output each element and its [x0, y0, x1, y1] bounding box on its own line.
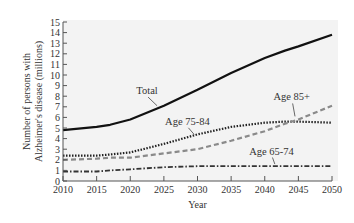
y-tick-label: 13 — [50, 38, 60, 49]
alzheimers-line-chart: 0123456789101112131415 20102015202020252… — [0, 0, 354, 223]
annotation-total: Total — [136, 85, 158, 96]
y-tick-label: 2 — [55, 154, 60, 165]
y-axis-label: Number of persons with Alzheimer's disea… — [21, 41, 45, 162]
x-tick-label: 2045 — [288, 184, 308, 195]
y-tick-label: 15 — [50, 17, 60, 28]
y-tick-label: 1 — [55, 165, 60, 176]
x-axis-label: Year — [188, 199, 207, 210]
y-tick-label: 7 — [55, 101, 60, 112]
y-tick-label: 14 — [50, 27, 60, 38]
x-tick-label: 2050 — [322, 184, 342, 195]
y-tick-label: 10 — [50, 70, 60, 81]
y-tick-label: 4 — [55, 133, 60, 144]
x-tick-label: 2015 — [87, 184, 107, 195]
x-tick-label: 2035 — [221, 184, 241, 195]
x-tick-label: 2020 — [120, 184, 140, 195]
x-tick-label: 2040 — [255, 184, 275, 195]
y-tick-label: 12 — [50, 48, 60, 59]
annotation-age-85-: Age 85+ — [273, 91, 310, 102]
annotation-age-75-84: Age 75-84 — [165, 116, 210, 127]
x-axis-ticks: 201020152020202520302035204020452050 — [53, 176, 342, 195]
y-tick-label: 9 — [55, 80, 60, 91]
y-tick-label: 11 — [50, 59, 60, 70]
x-tick-label: 2025 — [154, 184, 174, 195]
x-tick-label: 2030 — [188, 184, 208, 195]
y-tick-label: 6 — [55, 112, 60, 123]
y-axis-label-line-1: Number of persons with — [21, 53, 32, 150]
annotation-age-65-74: Age 65-74 — [249, 146, 294, 157]
chart-svg: 0123456789101112131415 20102015202020252… — [0, 0, 354, 223]
y-tick-label: 5 — [55, 123, 60, 134]
y-tick-label: 8 — [55, 91, 60, 102]
y-tick-label: 3 — [55, 144, 60, 155]
x-tick-label: 2010 — [53, 184, 73, 195]
y-axis-label-line-2: Alzheimer's disease (millions) — [33, 41, 45, 162]
